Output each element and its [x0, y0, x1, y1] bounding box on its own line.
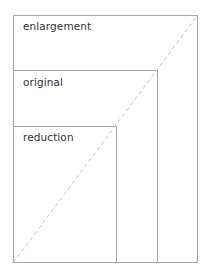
enlargement-label: enlargement: [23, 21, 91, 32]
reduction-label: reduction: [23, 132, 74, 143]
original-label: original: [23, 77, 63, 88]
reduction-rect: [14, 127, 117, 263]
